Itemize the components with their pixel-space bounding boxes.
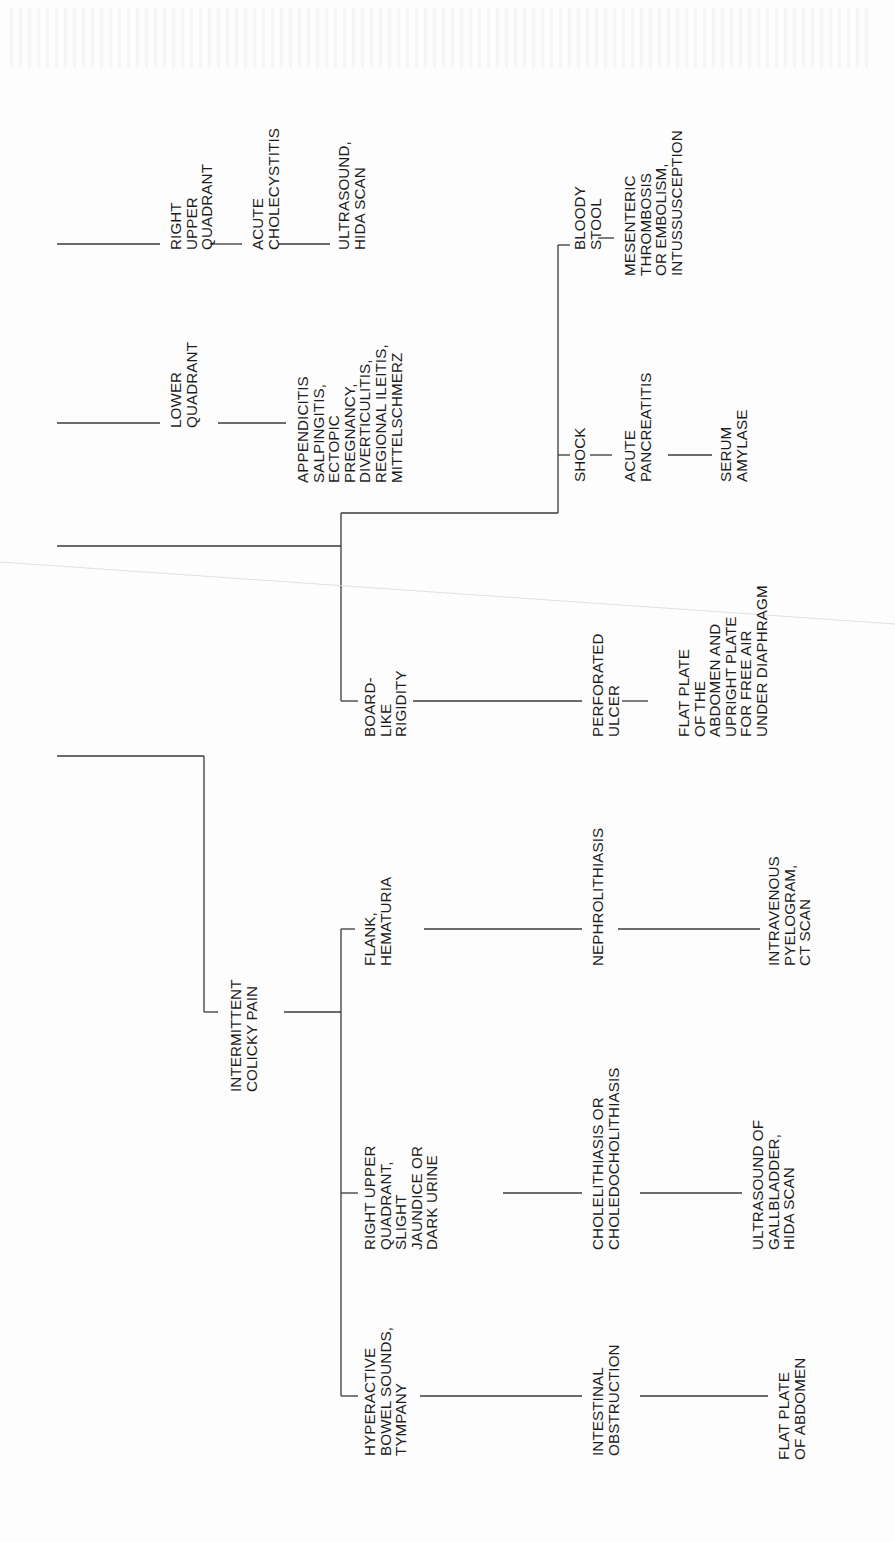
- node-line: OR EMBOLISM,: [653, 130, 669, 276]
- node-ultrasound-hida: ULTRASOUND,HIDA SCAN: [336, 141, 367, 250]
- node-line: ACUTE: [622, 373, 638, 483]
- node-line: RIGIDITY: [393, 670, 409, 737]
- node-line: ACUTE: [250, 128, 266, 250]
- node-acute-cholecystitis: ACUTECHOLECYSTITIS: [250, 128, 281, 250]
- node-acute-pancreatitis: ACUTEPANCREATITIS: [622, 373, 653, 483]
- node-line: OF THE: [692, 585, 708, 737]
- node-line: REGIONAL ILEITIS,: [373, 344, 389, 483]
- node-line: CT SCAN: [797, 856, 813, 966]
- node-line: OF ABDOMEN: [792, 1358, 808, 1460]
- node-line: MITTELSCHMERZ: [389, 344, 405, 483]
- node-line: BOARD-: [362, 670, 378, 737]
- node-line: FLAT PLATE: [776, 1358, 792, 1460]
- node-line: ECTOPIC: [326, 344, 342, 483]
- node-line: BOWEL SOUNDS,: [378, 1327, 394, 1456]
- node-line: COLICKY PAIN: [244, 979, 260, 1092]
- node-line: MESENTERIC: [622, 130, 638, 276]
- node-line: PYELOGRAM,: [782, 856, 798, 966]
- node-perforated-ulcer: PERFORATEDULCER: [590, 633, 621, 737]
- node-line: LOWER: [168, 342, 184, 428]
- node-line: BLOODY: [572, 186, 588, 250]
- node-line: RIGHT: [168, 164, 184, 250]
- node-line: FOR FREE AIR: [738, 585, 754, 737]
- node-line: QUADRANT: [199, 164, 215, 250]
- node-line: STOOL: [588, 186, 604, 250]
- node-line: UPPER: [184, 164, 200, 250]
- connector-lines: [0, 0, 895, 1542]
- node-board-like-rigidity: BOARD-LIKERIGIDITY: [362, 670, 409, 737]
- node-line: UNDER DIAPHRAGM: [754, 585, 770, 737]
- node-ultrasound-gallbladder: ULTRASOUND OFGALLBLADDER,HIDA SCAN: [750, 1120, 797, 1250]
- node-line: GALLBLADDER,: [766, 1120, 782, 1250]
- node-line: INTERMITTENT: [228, 979, 244, 1092]
- node-line: DARK URINE: [424, 1145, 440, 1250]
- node-line: ULTRASOUND OF: [750, 1120, 766, 1250]
- node-line: PREGNANCY,: [342, 344, 358, 483]
- node-line: ULTRASOUND,: [336, 141, 352, 250]
- node-nephrolithiasis: NEPHROLITHIASIS: [590, 828, 606, 966]
- node-line: FLAT PLATE: [676, 585, 692, 737]
- node-line: JAUNDICE OR: [409, 1145, 425, 1250]
- node-flat-plate-free-air: FLAT PLATEOF THEABDOMEN ANDUPRIGHT PLATE…: [676, 585, 770, 737]
- node-line: APPENDICITIS: [295, 344, 311, 483]
- node-line: SLIGHT: [393, 1145, 409, 1250]
- node-line: HIDA SCAN: [352, 141, 368, 250]
- node-ivp-ct: INTRAVENOUSPYELOGRAM,CT SCAN: [766, 856, 813, 966]
- node-line: AMYLASE: [734, 410, 750, 482]
- node-flat-plate-abdomen: FLAT PLATEOF ABDOMEN: [776, 1358, 807, 1460]
- node-line: PANCREATITIS: [638, 373, 654, 483]
- node-line: SERUM: [718, 410, 734, 482]
- node-hyperactive-bowel: HYPERACTIVEBOWEL SOUNDS,TYMPANY: [362, 1327, 409, 1456]
- node-line: HEMATURIA: [378, 877, 394, 966]
- node-line: UPRIGHT PLATE: [723, 585, 739, 737]
- node-line: TYMPANY: [393, 1327, 409, 1456]
- node-line: ULCER: [606, 633, 622, 737]
- node-line: INTUSSUSCEPTION: [669, 130, 685, 276]
- node-line: THROMBOSIS: [638, 130, 654, 276]
- node-mesenteric: MESENTERICTHROMBOSISOR EMBOLISM,INTUSSUS…: [622, 130, 684, 276]
- node-appendicitis-group: APPENDICITISSALPINGITIS,ECTOPICPREGNANCY…: [295, 344, 404, 483]
- node-ruq-jaundice: RIGHT UPPERQUADRANT,SLIGHTJAUNDICE ORDAR…: [362, 1145, 440, 1250]
- node-serum-amylase: SERUMAMYLASE: [718, 410, 749, 482]
- node-line: RIGHT UPPER: [362, 1145, 378, 1250]
- node-intestinal-obstruction: INTESTINALOBSTRUCTION: [590, 1344, 621, 1456]
- node-line: SALPINGITIS,: [311, 344, 327, 483]
- node-bloody-stool: BLOODYSTOOL: [572, 186, 603, 250]
- node-line: CHOLEDOCHOLITHIASIS: [606, 1068, 622, 1251]
- node-intermittent-colicky-pain: INTERMITTENTCOLICKY PAIN: [228, 979, 259, 1092]
- node-line: HYPERACTIVE: [362, 1327, 378, 1456]
- node-cholelithiasis: CHOLELITHIASIS ORCHOLEDOCHOLITHIASIS: [590, 1068, 621, 1251]
- node-ruq: RIGHTUPPERQUADRANT: [168, 164, 215, 250]
- node-line: CHOLECYSTITIS: [266, 128, 282, 250]
- node-line: HIDA SCAN: [781, 1120, 797, 1250]
- node-shock: SHOCK: [572, 427, 588, 482]
- diagram-canvas: RIGHTUPPERQUADRANTACUTECHOLECYSTITISULTR…: [0, 0, 895, 1542]
- node-line: ABDOMEN AND: [707, 585, 723, 737]
- node-line: DIVERTICULITIS,: [357, 344, 373, 483]
- node-line: QUADRANT,: [378, 1145, 394, 1250]
- node-line: SHOCK: [572, 427, 588, 482]
- node-line: PERFORATED: [590, 633, 606, 737]
- node-line: OBSTRUCTION: [606, 1344, 622, 1456]
- node-line: INTRAVENOUS: [766, 856, 782, 966]
- node-line: CHOLELITHIASIS OR: [590, 1068, 606, 1251]
- node-lower-quadrant: LOWERQUADRANT: [168, 342, 199, 428]
- node-flank-hematuria: FLANK,HEMATURIA: [362, 877, 393, 966]
- node-line: FLANK,: [362, 877, 378, 966]
- node-line: LIKE: [378, 670, 394, 737]
- node-line: NEPHROLITHIASIS: [590, 828, 606, 966]
- node-line: INTESTINAL: [590, 1344, 606, 1456]
- node-line: QUADRANT: [184, 342, 200, 428]
